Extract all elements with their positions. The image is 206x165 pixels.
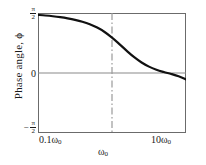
fraction-denominator: 2 bbox=[30, 13, 36, 21]
fraction-pi-over-2-negative: π 2 bbox=[30, 120, 36, 135]
x-tick-label-right: 10ω0 bbox=[151, 134, 171, 146]
y-tick-label-zero: 0 bbox=[20, 67, 36, 79]
plot-area bbox=[38, 13, 186, 133]
fraction-numerator: π bbox=[30, 120, 36, 127]
zero-value: 0 bbox=[31, 68, 36, 79]
omega-symbol: ω bbox=[98, 146, 105, 157]
y-tick-label-pi-over-2: π 2 bbox=[20, 7, 36, 19]
omega-symbol: ω bbox=[161, 134, 168, 145]
x-tick-label-center: ω0 bbox=[0, 146, 206, 158]
y-axis-title: Phase angle, ϕ bbox=[12, 1, 24, 131]
fraction-numerator: π bbox=[30, 6, 36, 13]
minus-sign: − bbox=[23, 122, 28, 132]
x-tick-label-left: 0.1ω0 bbox=[39, 134, 62, 146]
omega-subscript: 0 bbox=[105, 150, 109, 158]
phase-angle-chart: Phase angle, ϕ π 2 0 − π 2 0.1ω0 10ω0 ω0 bbox=[0, 0, 206, 165]
x-left-coefficient: 0.1 bbox=[39, 134, 52, 145]
fraction-denominator: 2 bbox=[30, 127, 36, 135]
fraction-pi-over-2: π 2 bbox=[30, 6, 36, 21]
x-right-coefficient: 10 bbox=[151, 134, 161, 145]
omega-subscript: 0 bbox=[168, 138, 172, 146]
omega-subscript: 0 bbox=[58, 138, 62, 146]
y-tick-label-minus-pi-over-2: − π 2 bbox=[17, 121, 36, 133]
